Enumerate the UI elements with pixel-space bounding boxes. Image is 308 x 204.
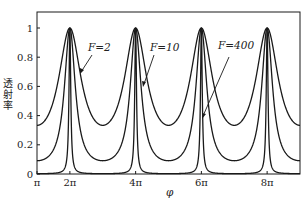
x-axis-label: φ <box>166 186 174 198</box>
arrowhead-f400 <box>202 113 206 119</box>
x-tick-label: 4π <box>129 177 142 188</box>
annotation-f2: F=2 <box>87 41 111 53</box>
y-tick-label: 0.4 <box>17 110 33 121</box>
y-axis-label: 透射率 <box>3 78 15 111</box>
y-tick-label: 0.2 <box>17 139 33 150</box>
arrowhead-f10 <box>142 81 146 87</box>
annotation-f10: F=10 <box>149 41 180 53</box>
chart: 00.20.40.60.81 π2π4π6π8π F=2 F=10 F=400 … <box>0 0 308 204</box>
y-tick-label: 0.6 <box>17 81 33 92</box>
annotation-f400: F=400 <box>217 39 254 51</box>
y-tick-label: 1 <box>27 23 33 34</box>
x-tick-label: 8π <box>261 177 274 188</box>
y-tick-label: 0 <box>27 169 33 180</box>
x-tick-label: π <box>34 177 41 188</box>
x-tick-label: 2π <box>63 177 76 188</box>
x-tick-label: 6π <box>195 177 208 188</box>
y-tick-label: 0.8 <box>17 52 33 63</box>
